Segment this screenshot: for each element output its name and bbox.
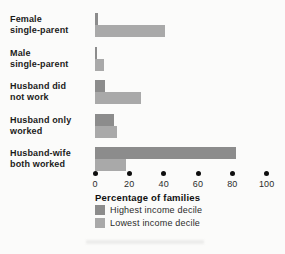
- axis-tick-dot: [161, 171, 166, 176]
- category-label-line: Female: [10, 14, 94, 25]
- category-label: Malesingle-parent: [10, 48, 94, 70]
- category-label-line: Husband-wife: [10, 148, 94, 159]
- category-label: Husband-wifeboth worked: [10, 148, 94, 170]
- axis-tick-dot: [230, 171, 235, 176]
- legend-item-lowest: Lowest income decile: [95, 218, 200, 228]
- lowest-decile-bar-4: [95, 159, 126, 171]
- lowest-decile-bar-3: [95, 126, 117, 138]
- axis-tick-label: 100: [254, 179, 280, 189]
- category-label-line: worked: [10, 126, 94, 137]
- category-label: Husband didnot work: [10, 81, 94, 103]
- x-axis-title: Percentage of families: [95, 192, 200, 203]
- page-print-bleed: [86, 240, 204, 244]
- axis-tick-label: 40: [151, 179, 177, 189]
- highest-decile-bar-2: [95, 80, 105, 92]
- axis-tick-dot: [196, 171, 201, 176]
- highest-decile-bar-1: [95, 47, 97, 59]
- axis-tick-label: 80: [219, 179, 245, 189]
- axis-tick-dot: [93, 171, 98, 176]
- axis-tick-dot: [127, 171, 132, 176]
- category-label: Femalesingle-parent: [10, 14, 94, 36]
- highest-decile-bar-4: [95, 147, 236, 159]
- axis-tick-label: 0: [82, 179, 108, 189]
- lowest-decile-bar-2: [95, 92, 141, 104]
- category-label: Husband onlyworked: [10, 115, 94, 137]
- category-label-line: not work: [10, 92, 94, 103]
- lowest-decile-bar-0: [95, 25, 165, 37]
- highest-decile-bar-0: [95, 13, 98, 25]
- axis-tick-label: 60: [185, 179, 211, 189]
- highest-decile-swatch-icon: [95, 205, 105, 215]
- axis-tick-label: 20: [116, 179, 142, 189]
- legend-item-highest: Highest income decile: [95, 205, 202, 215]
- lowest-decile-bar-1: [95, 59, 104, 71]
- legend-label-lowest: Lowest income decile: [110, 218, 200, 228]
- axis-tick-dot: [264, 171, 269, 176]
- income-decile-bar-chart: Femalesingle-parentMalesingle-parentHusb…: [0, 0, 285, 254]
- category-label-line: both worked: [10, 159, 94, 170]
- legend-label-highest: Highest income decile: [110, 205, 202, 215]
- category-label-line: Husband did: [10, 81, 94, 92]
- category-label-line: single-parent: [10, 25, 94, 36]
- lowest-decile-swatch-icon: [95, 218, 105, 228]
- category-label-line: Husband only: [10, 115, 94, 126]
- category-label-line: Male: [10, 48, 94, 59]
- category-label-line: single-parent: [10, 59, 94, 70]
- highest-decile-bar-3: [95, 114, 114, 126]
